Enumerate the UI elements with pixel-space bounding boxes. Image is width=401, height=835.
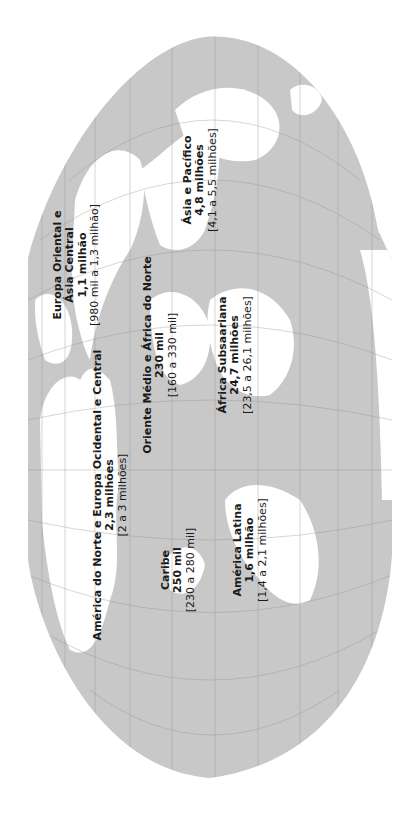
region-range: [1,4 a 2,1 milhões] (256, 498, 268, 602)
world-map (0, 0, 401, 835)
region-label-middle-east-north-africa: Oriente Médio e África do Norte 230 mil … (142, 256, 179, 454)
region-value: 4,8 milhões (194, 128, 206, 232)
region-range: [2 a 3 milhões] (116, 350, 128, 641)
region-range: [23,5 a 26,1 milhões] (241, 296, 253, 414)
region-value: 24,7 milhões (229, 296, 241, 414)
region-label-eastern-europe-central-asia: Europa Oriental e Ásia Central 1,1 milhã… (52, 204, 101, 326)
region-value: 2,3 milhões (104, 350, 116, 641)
region-value: 250 mil (172, 528, 184, 613)
region-value: 230 mil (154, 256, 166, 454)
region-range: [980 mil a 1,3 milhão] (89, 204, 101, 326)
region-range: [4,1 a 5,5 milhões] (206, 128, 218, 232)
region-label-caribbean: Caribe 250 mil [230 a 280 mil] (160, 528, 197, 613)
region-label-north-america-western-central-europe: América do Norte e Europa Ocidental e Ce… (92, 350, 129, 641)
region-range: [160 a 330 mil] (166, 256, 178, 454)
region-label-asia-pacific: Ásia e Pacífico 4,8 milhões [4,1 a 5,5 m… (182, 128, 219, 232)
region-value: 1,6 milhão (244, 498, 256, 602)
region-label-latin-america: América Latina 1,6 milhão [1,4 a 2,1 mil… (232, 498, 269, 602)
region-label-sub-saharan-africa: África Subsaariana 24,7 milhões [23,5 a … (217, 296, 254, 414)
region-name-line2: Ásia Central (65, 204, 77, 326)
region-range: [230 a 280 mil] (184, 528, 196, 613)
